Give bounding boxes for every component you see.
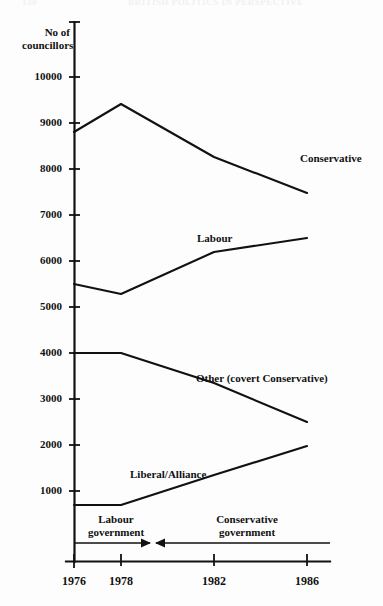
- y-tick-label-6000: 6000: [14, 254, 62, 266]
- conservative-government-line2: government: [219, 526, 275, 538]
- y-tick-label-8000: 8000: [14, 162, 62, 174]
- series-line-other: [74, 353, 307, 422]
- y-tick-label-9000: 9000: [14, 116, 62, 128]
- series-line-labour: [74, 238, 307, 294]
- y-tick-label-4000: 4000: [14, 346, 62, 358]
- labour-government-line2: government: [88, 526, 144, 538]
- line-chart-figure: No of councillors 10000 9000 8000 7000 6…: [0, 0, 383, 606]
- y-tick-label-1000: 1000: [14, 484, 62, 496]
- y-tick-label-3000: 3000: [14, 392, 62, 404]
- y-tick-label-2000: 2000: [14, 438, 62, 450]
- y-axis-title: No of councillors: [22, 26, 70, 52]
- x-tick-label-1978: 1978: [99, 574, 143, 589]
- series-line-conservative: [74, 104, 307, 193]
- series-label-conservative: Conservative: [300, 152, 362, 164]
- y-tick-label-5000: 5000: [14, 300, 62, 312]
- conservative-government-line1: Conservative: [216, 513, 278, 525]
- x-tick-label-1986: 1986: [285, 574, 329, 589]
- x-tick-label-1976: 1976: [52, 574, 96, 589]
- conservative-government-arrowhead: [155, 539, 165, 548]
- labour-government-line1: Labour: [98, 513, 133, 525]
- x-tick-label-1982: 1982: [192, 574, 236, 589]
- annotation-conservative-government: Conservative government: [198, 513, 296, 539]
- y-tick-label-7000: 7000: [14, 208, 62, 220]
- y-tick-label-10000: 10000: [14, 70, 62, 82]
- y-axis-title-line2: councillors: [22, 39, 73, 51]
- labour-government-arrowhead: [141, 539, 151, 548]
- series-label-liberal-alliance: Liberal/Alliance: [130, 468, 206, 480]
- series-label-labour: Labour: [197, 232, 232, 244]
- y-axis-title-line1: No of: [45, 26, 70, 38]
- series-label-other: Other (covert Conservative): [196, 372, 328, 384]
- annotation-labour-government: Labour government: [78, 513, 154, 539]
